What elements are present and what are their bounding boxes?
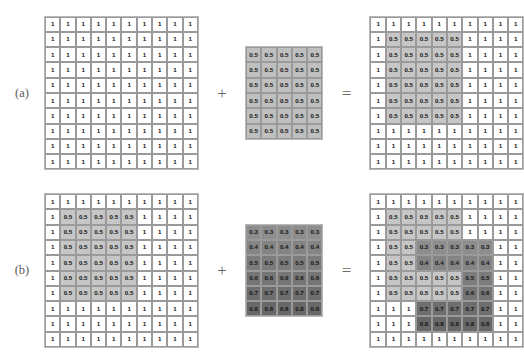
grid-cell: 1	[60, 78, 75, 93]
grid-cell: 1	[416, 194, 431, 209]
grid-cell: 0.5	[401, 271, 416, 286]
grid-cell: 0.8	[478, 316, 493, 331]
grid-cell: 0.5	[261, 255, 276, 270]
grid-cell: 0.5	[60, 286, 75, 301]
base-grid-b-wrap: 111111111110.50.50.50.50.5111110.50.50.5…	[44, 193, 199, 348]
grid-cell: 0.5	[106, 255, 121, 270]
grid-cell: 1	[76, 78, 91, 93]
grid-cell: 1	[167, 255, 182, 270]
grid-cell: 0.5	[76, 255, 91, 270]
grid-cell: 0.3	[246, 225, 261, 240]
grid-cell: 1	[183, 108, 198, 123]
grid-cell: 1	[401, 17, 416, 32]
grid-cell: 1	[416, 17, 431, 32]
grid-cell: 0.5	[91, 240, 106, 255]
grid-cell: 1	[493, 62, 508, 77]
grid-cell: 0.5	[416, 286, 431, 301]
grid-cell: 0.5	[307, 47, 322, 62]
grid-cell: 1	[152, 271, 167, 286]
grid-cell: 1	[416, 332, 431, 347]
grid-cell: 1	[183, 32, 198, 47]
grid-cell: 1	[493, 225, 508, 240]
grid-cell: 1	[152, 194, 167, 209]
grid-cell: 1	[121, 78, 136, 93]
grid-cell: 1	[137, 286, 152, 301]
grid-cell: 1	[121, 316, 136, 331]
grid-cell: 1	[91, 17, 106, 32]
grid-cell: 1	[60, 139, 75, 154]
grid-cell: 1	[152, 108, 167, 123]
grid-cell: 1	[76, 62, 91, 77]
grid-cell: 0.5	[447, 286, 462, 301]
grid-cell: 0.5	[292, 108, 307, 123]
grid-cell: 0.5	[106, 225, 121, 240]
grid-cell: 1	[508, 225, 523, 240]
grid-cell: 1	[370, 225, 385, 240]
grid-cell: 0.5	[106, 209, 121, 224]
grid-cell: 0.5	[386, 62, 401, 77]
grid-cell: 1	[137, 108, 152, 123]
grid-cell: 1	[478, 209, 493, 224]
grid-cell: 0.4	[246, 240, 261, 255]
grid-cell: 0.6	[292, 271, 307, 286]
grid-cell: 1	[478, 62, 493, 77]
grid-cell: 1	[106, 17, 121, 32]
grid-cell: 1	[508, 93, 523, 108]
grid-cell: 1	[183, 240, 198, 255]
grid-cell: 1	[386, 17, 401, 32]
grid-cell: 1	[478, 225, 493, 240]
grid-cell: 1	[167, 316, 182, 331]
grid-cell: 1	[137, 47, 152, 62]
grid-cell: 0.5	[261, 93, 276, 108]
grid-cell: 0.5	[121, 209, 136, 224]
grid-cell: 0.5	[246, 108, 261, 123]
grid-cell: 1	[183, 47, 198, 62]
grid-cell: 0.6	[261, 271, 276, 286]
grid-cell: 1	[152, 78, 167, 93]
grid-cell: 0.5	[401, 93, 416, 108]
grid-cell: 0.5	[416, 93, 431, 108]
grid-cell: 1	[152, 62, 167, 77]
grid-cell: 1	[478, 93, 493, 108]
grid-cell: 0.5	[386, 240, 401, 255]
grid-cell: 1	[508, 32, 523, 47]
grid-cell: 1	[137, 93, 152, 108]
grid-cell: 1	[152, 209, 167, 224]
grid-cell: 1	[106, 93, 121, 108]
grid-cell: 1	[167, 17, 182, 32]
grid-cell: 1	[432, 154, 447, 169]
grid-cell: 1	[137, 271, 152, 286]
result-grid-b-wrap: 111111111110.50.50.50.50.5111110.50.50.5…	[369, 193, 524, 348]
grid-cell: 1	[106, 47, 121, 62]
grid-cell: 0.5	[292, 124, 307, 139]
grid-cell: 0.5	[277, 47, 292, 62]
grid-cell: 1	[508, 332, 523, 347]
grid-cell: 1	[76, 154, 91, 169]
grid-cell: 1	[45, 316, 60, 331]
grid-cell: 0.5	[76, 286, 91, 301]
grid-cell: 1	[91, 332, 106, 347]
grid-cell: 1	[478, 139, 493, 154]
grid-cell: 1	[167, 301, 182, 316]
grid-cell: 1	[370, 62, 385, 77]
grid-cell: 0.5	[60, 225, 75, 240]
grid-cell: 1	[493, 17, 508, 32]
grid-cell: 1	[183, 316, 198, 331]
grid-cell: 0.4	[432, 255, 447, 270]
grid-cell: 0.5	[292, 47, 307, 62]
grid-cell: 1	[45, 332, 60, 347]
grid-cell: 1	[76, 93, 91, 108]
grid-cell: 1	[60, 32, 75, 47]
grid-cell: 0.5	[106, 240, 121, 255]
grid-cell: 1	[121, 139, 136, 154]
grid-cell: 0.5	[401, 108, 416, 123]
grid-cell: 1	[167, 139, 182, 154]
grid-cell: 1	[462, 225, 477, 240]
grid-cell: 1	[106, 62, 121, 77]
grid-cell: 0.7	[447, 301, 462, 316]
grid-cell: 0.5	[91, 286, 106, 301]
grid-cell: 1	[183, 124, 198, 139]
grid-cell: 0.7	[277, 286, 292, 301]
grid-cell: 1	[493, 240, 508, 255]
grid-cell: 0.5	[401, 47, 416, 62]
